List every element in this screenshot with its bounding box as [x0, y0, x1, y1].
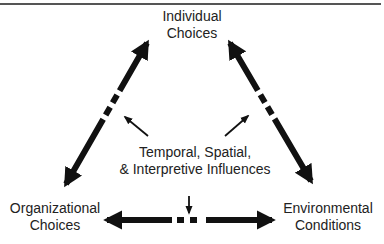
node-label-line: Temporal, Spatial, — [110, 144, 280, 161]
node-label-line: Choices — [142, 25, 242, 42]
influence-arrow-left — [125, 117, 148, 136]
node-label-line: & Interpretive Influences — [110, 161, 280, 178]
node-label-line: Environmental — [272, 200, 384, 217]
node-organizational-choices: Organizational Choices — [0, 200, 110, 234]
influence-arrow-right — [225, 116, 248, 136]
node-environmental-conditions: Environmental Conditions — [272, 200, 384, 234]
node-label-line: Organizational — [0, 200, 110, 217]
node-influences: Temporal, Spatial, & Interpretive Influe… — [110, 144, 280, 178]
node-label-line: Choices — [0, 217, 110, 234]
node-individual-choices: Individual Choices — [142, 8, 242, 42]
node-label-line: Individual — [142, 8, 242, 25]
node-label-line: Conditions — [272, 217, 384, 234]
